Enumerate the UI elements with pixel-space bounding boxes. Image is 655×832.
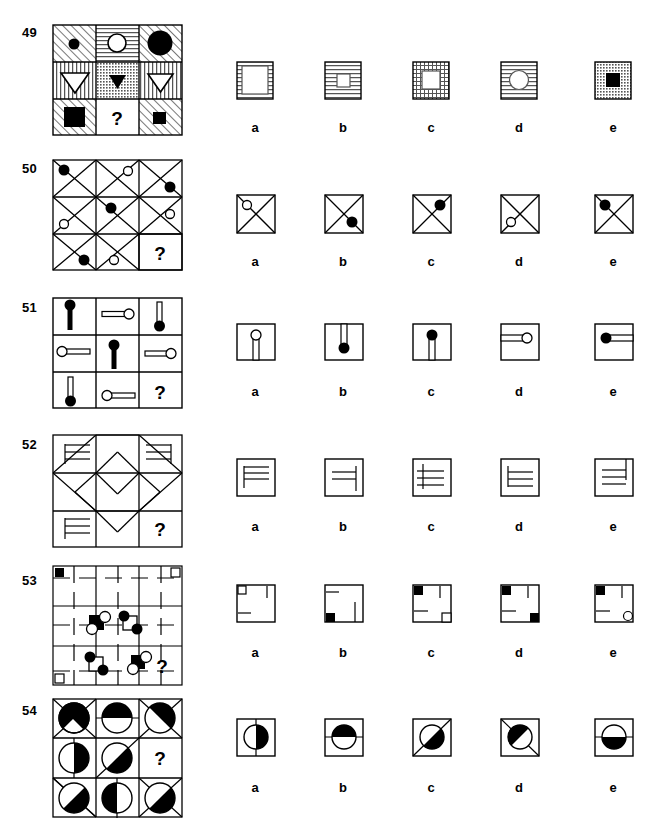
option-label-52-a: a: [240, 519, 270, 534]
question-mark-53: ?: [156, 656, 168, 677]
option-label-53-c: c: [416, 645, 446, 660]
question-mark-54: ?: [154, 748, 166, 769]
option-label-50-a: a: [240, 254, 270, 269]
option-label-53-b: b: [328, 645, 358, 660]
option-52-a[interactable]: [236, 458, 276, 500]
option-label-51-a: a: [240, 384, 270, 399]
option-label-51-e: e: [598, 384, 628, 399]
matrix-diamond-52: [53, 435, 182, 532]
option-label-51-d: d: [504, 384, 534, 399]
option-53-d[interactable]: [500, 584, 540, 626]
option-49-a[interactable]: [236, 61, 274, 101]
option-50-b[interactable]: [324, 194, 364, 236]
option-label-51-c: c: [416, 384, 446, 399]
matrix-53: ?: [52, 565, 183, 687]
matrix-51: ?: [52, 297, 183, 409]
puzzle-number-50: 50: [22, 161, 37, 176]
option-label-52-d: d: [504, 519, 534, 534]
matrix-shapes-49: ?: [61, 31, 173, 130]
matrix-49: ?: [52, 24, 183, 136]
option-51-a[interactable]: [236, 323, 276, 365]
option-49-d[interactable]: [500, 61, 538, 101]
option-label-54-d: d: [504, 780, 534, 795]
option-label-53-d: d: [504, 645, 534, 660]
puzzle-row-52: 52: [0, 427, 655, 562]
option-label-54-a: a: [240, 780, 270, 795]
puzzle-row-53: 53: [0, 562, 655, 692]
puzzle-number-52: 52: [22, 437, 37, 452]
test-page: 49: [0, 0, 655, 832]
option-label-50-c: c: [416, 254, 446, 269]
puzzle-row-50: 50: [0, 158, 655, 293]
option-label-52-c: c: [416, 519, 446, 534]
option-53-e[interactable]: [594, 584, 634, 626]
matrix-54: ?: [52, 698, 183, 820]
option-label-49-e: e: [598, 120, 628, 135]
puzzle-row-51: 51: [0, 292, 655, 427]
puzzle-number-51: 51: [22, 300, 37, 315]
option-label-50-b: b: [328, 254, 358, 269]
option-49-e[interactable]: [594, 61, 632, 101]
option-54-d[interactable]: [500, 718, 540, 762]
option-50-c[interactable]: [412, 194, 452, 236]
option-50-d[interactable]: [500, 194, 540, 236]
option-label-54-c: c: [416, 780, 446, 795]
option-label-50-d: d: [504, 254, 534, 269]
matrix-52: ?: [52, 434, 183, 549]
option-53-c[interactable]: [412, 584, 452, 626]
puzzle-number-49: 49: [22, 25, 37, 40]
option-label-54-e: e: [598, 780, 628, 795]
option-54-e[interactable]: [594, 718, 634, 762]
question-mark-52: ?: [154, 519, 166, 540]
option-label-50-e: e: [598, 254, 628, 269]
question-mark-49: ?: [111, 108, 123, 129]
option-49-c[interactable]: [412, 61, 450, 101]
option-label-51-b: b: [328, 384, 358, 399]
option-54-a[interactable]: [236, 718, 276, 762]
option-51-c[interactable]: [412, 323, 452, 365]
option-52-b[interactable]: [324, 458, 364, 500]
option-label-52-e: e: [598, 519, 628, 534]
puzzle-row-54: 54: [0, 692, 655, 832]
option-51-d[interactable]: [500, 323, 540, 365]
option-54-c[interactable]: [412, 718, 452, 762]
matrix-50: ? ?: [52, 159, 183, 271]
option-52-e[interactable]: [594, 458, 634, 500]
option-label-53-e: e: [598, 645, 628, 660]
puzzle-row-49: 49: [0, 0, 655, 146]
option-51-e[interactable]: [594, 323, 634, 365]
option-label-53-a: a: [240, 645, 270, 660]
option-52-c[interactable]: [412, 458, 452, 500]
option-50-a[interactable]: [236, 194, 276, 236]
option-label-49-a: a: [240, 120, 270, 135]
option-53-b[interactable]: [324, 584, 364, 626]
option-50-e[interactable]: [594, 194, 634, 236]
puzzle-number-53: 53: [22, 573, 37, 588]
option-label-49-d: d: [504, 120, 534, 135]
option-label-54-b: b: [328, 780, 358, 795]
option-label-49-c: c: [416, 120, 446, 135]
option-54-b[interactable]: [324, 718, 364, 762]
option-49-b[interactable]: [324, 61, 362, 101]
option-label-49-b: b: [328, 120, 358, 135]
option-52-d[interactable]: [500, 458, 540, 500]
question-mark-50b: ?: [154, 243, 166, 264]
question-mark-51: ?: [154, 382, 166, 403]
option-53-a[interactable]: [236, 584, 276, 626]
option-51-b[interactable]: [324, 323, 364, 365]
option-label-52-b: b: [328, 519, 358, 534]
puzzle-number-54: 54: [22, 703, 37, 718]
